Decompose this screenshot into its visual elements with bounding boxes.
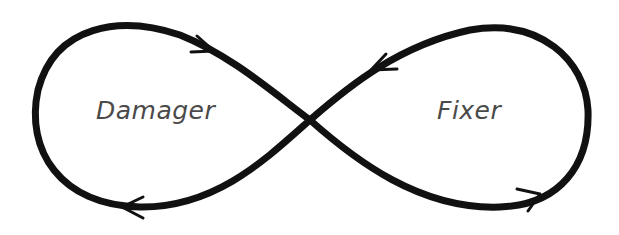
fixer-label: Fixer — [437, 96, 501, 125]
infinity-loop-diagram — [0, 0, 619, 235]
damager-label: Damager — [96, 96, 215, 125]
